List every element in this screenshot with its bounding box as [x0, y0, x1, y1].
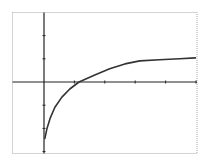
graph-canvas [0, 0, 203, 163]
function-curve [45, 58, 196, 138]
